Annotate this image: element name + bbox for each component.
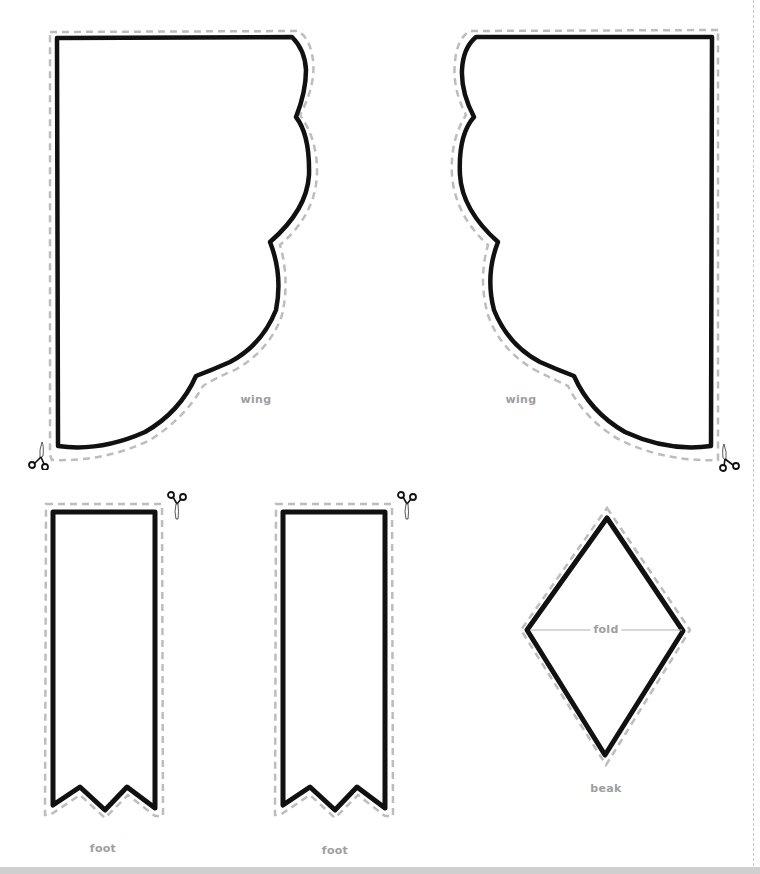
page-bottom-band bbox=[0, 867, 760, 874]
scissors-icon bbox=[719, 442, 741, 472]
right-wing-outline bbox=[460, 37, 712, 447]
left-wing-piece bbox=[50, 31, 317, 460]
right-wing-piece bbox=[452, 30, 718, 460]
right-foot-label: foot bbox=[322, 844, 348, 857]
scissors-icon bbox=[27, 440, 49, 470]
left-foot-outline bbox=[53, 512, 155, 810]
beak-fold-label: fold bbox=[590, 623, 621, 636]
beak-label: beak bbox=[590, 782, 621, 795]
left-foot-label: foot bbox=[90, 842, 116, 855]
scissors-icon bbox=[166, 490, 188, 520]
beak-piece bbox=[521, 508, 690, 765]
page-edge-dotted-line bbox=[753, 0, 754, 866]
scissors-icon bbox=[396, 490, 418, 520]
printable-template-sheet: wing wing foot foot fold beak bbox=[0, 0, 760, 874]
left-wing-label: wing bbox=[241, 393, 272, 406]
left-wing-outline bbox=[57, 37, 309, 447]
right-foot-piece bbox=[275, 504, 393, 818]
right-wing-label: wing bbox=[506, 393, 537, 406]
beak-outline bbox=[527, 518, 683, 755]
template-drawing bbox=[0, 0, 760, 874]
left-foot-piece bbox=[45, 504, 163, 818]
right-foot-outline bbox=[283, 512, 385, 810]
